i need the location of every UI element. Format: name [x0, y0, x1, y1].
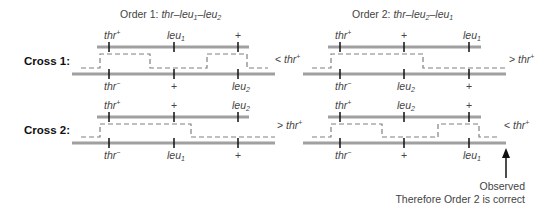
order1-header: Order 1: thr–leu1–leu2 — [120, 8, 221, 21]
svg-text:> thr+: > thr+ — [509, 53, 534, 65]
observed-annotation: Observed Therefore Order 2 is correct — [395, 148, 525, 205]
svg-text:thr−: thr− — [104, 149, 120, 161]
svg-text:+: + — [171, 80, 177, 92]
gene-order-diagram: Order 1: thr–leu1–leu2 Order 2: thr–leu2… — [0, 0, 550, 209]
cross1-order1-result: < thr+ — [275, 53, 300, 65]
svg-text:leu1: leu1 — [463, 29, 481, 42]
crossover-path — [81, 54, 268, 68]
cross2-label: Cross 2: — [24, 124, 70, 136]
svg-text:leu2: leu2 — [232, 80, 250, 93]
svg-text:thr−: thr− — [335, 149, 351, 161]
svg-text:thr+: thr+ — [104, 99, 120, 111]
conclusion-label: Therefore Order 2 is correct — [395, 193, 525, 205]
cross1-order2: thr+ + leu1 thr− leu2 + > thr+ — [303, 29, 534, 93]
svg-text:leu1: leu1 — [167, 149, 185, 162]
svg-text:leu2: leu2 — [397, 80, 415, 93]
cross1-order1: thr+ leu1 + thr− + leu2 < thr+ — [72, 29, 300, 93]
cross1-label: Cross 1: — [24, 55, 70, 67]
svg-text:+: + — [401, 29, 407, 41]
svg-text:thr−: thr− — [104, 80, 120, 92]
svg-text:leu2: leu2 — [232, 99, 250, 112]
order2-header: Order 2: thr–leu2–leu1 — [352, 8, 453, 21]
svg-text:+: + — [171, 99, 177, 111]
svg-text:+: + — [466, 99, 472, 111]
svg-text:thr+: thr+ — [104, 29, 120, 41]
svg-text:leu2: leu2 — [397, 99, 415, 112]
svg-text:+: + — [235, 149, 241, 161]
svg-text:< thr+: < thr+ — [504, 119, 529, 131]
svg-text:thr−: thr− — [335, 80, 351, 92]
svg-text:thr+: thr+ — [335, 29, 351, 41]
cross2-order1: thr+ + leu2 thr− leu1 + > thr+ — [72, 99, 302, 162]
observed-label: Observed — [479, 180, 525, 192]
svg-text:> thr+: > thr+ — [277, 119, 302, 131]
diagram-canvas: Order 1: thr–leu1–leu2 Order 2: thr–leu2… — [0, 0, 550, 209]
svg-text:+: + — [401, 149, 407, 161]
cross2-order2: thr+ leu2 + thr− + leu1 < thr+ — [303, 99, 529, 162]
svg-text:+: + — [466, 80, 472, 92]
svg-text:leu1: leu1 — [463, 149, 481, 162]
svg-text:thr+: thr+ — [335, 99, 351, 111]
svg-text:leu1: leu1 — [167, 29, 185, 42]
svg-text:+: + — [235, 29, 241, 41]
